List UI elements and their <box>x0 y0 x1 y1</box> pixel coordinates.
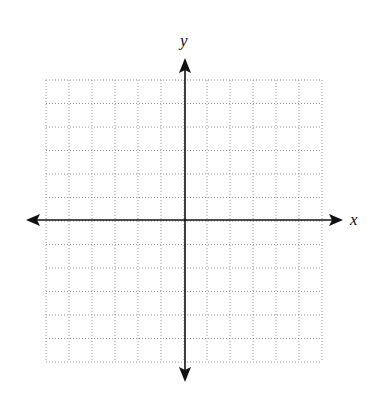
coordinate-plane: x y <box>0 0 381 399</box>
grid <box>46 80 322 362</box>
y-axis-label: y <box>178 31 188 50</box>
x-axis-label: x <box>349 210 358 229</box>
